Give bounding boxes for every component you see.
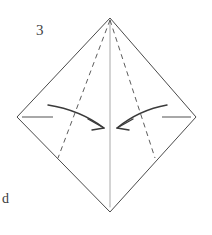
panel-letter-label: d (2, 192, 9, 206)
figure-canvas (0, 0, 212, 235)
origami-step-figure: 3 d (0, 0, 212, 235)
step-number-label: 3 (36, 23, 44, 38)
